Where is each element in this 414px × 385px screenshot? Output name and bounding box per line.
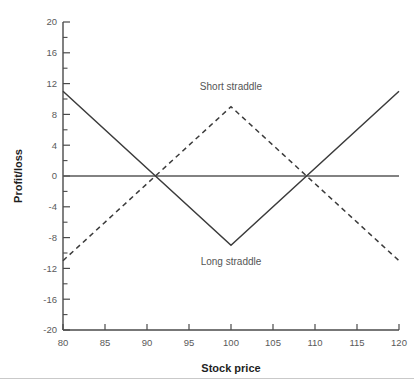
series-annotations: Short straddleLong straddle xyxy=(200,81,263,268)
y-tick-label--4: -4 xyxy=(49,201,57,212)
series-line-long-straddle xyxy=(63,91,399,245)
straddle-payoff-chart: -20-16-12-8-4048121620 80859095100105110… xyxy=(0,0,414,385)
x-tick-label-100: 100 xyxy=(223,337,239,348)
bottom-divider xyxy=(0,378,414,379)
x-axis-ticks xyxy=(63,324,399,330)
y-tick-label-12: 12 xyxy=(46,78,57,89)
y-tick-label--12: -12 xyxy=(43,263,57,274)
y-tick-label-0: 0 xyxy=(52,170,57,181)
x-tick-label-110: 110 xyxy=(307,337,322,348)
y-axis-tick-labels: -20-16-12-8-4048121620 xyxy=(43,16,57,335)
x-tick-label-85: 85 xyxy=(100,337,111,348)
y-axis-title: Profit/loss xyxy=(12,149,24,203)
y-tick-label--20: -20 xyxy=(43,324,57,335)
x-tick-label-90: 90 xyxy=(142,337,153,348)
x-tick-label-115: 115 xyxy=(349,337,364,348)
x-tick-label-120: 120 xyxy=(391,337,407,348)
x-tick-label-95: 95 xyxy=(184,337,195,348)
y-tick-label--8: -8 xyxy=(49,232,57,243)
y-tick-label-8: 8 xyxy=(52,109,57,120)
y-tick-label-16: 16 xyxy=(46,47,57,58)
chart-figure: -20-16-12-8-4048121620 80859095100105110… xyxy=(0,0,414,385)
x-axis-title: Stock price xyxy=(201,362,260,374)
x-axis-tick-labels: 80859095100105110115120 xyxy=(58,337,407,348)
annotation-short-straddle: Short straddle xyxy=(200,81,263,92)
annotation-long-straddle: Long straddle xyxy=(201,256,262,267)
y-tick-label-4: 4 xyxy=(52,140,57,151)
y-tick-label--16: -16 xyxy=(43,294,57,305)
y-tick-label-20: 20 xyxy=(46,16,57,27)
series-line-short-straddle xyxy=(63,107,399,261)
x-tick-label-80: 80 xyxy=(58,337,69,348)
x-tick-label-105: 105 xyxy=(265,337,281,348)
